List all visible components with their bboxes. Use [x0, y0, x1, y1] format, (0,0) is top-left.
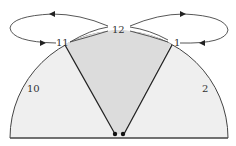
clock-loop-diagram: 12 11 1 10 2 — [0, 0, 236, 146]
right-loop-arrow-top — [180, 11, 186, 17]
label-1: 1 — [174, 37, 180, 48]
label-2: 2 — [202, 83, 208, 94]
label-11: 11 — [56, 37, 69, 48]
left-loop-arrow-bottom — [40, 40, 46, 46]
bottom-dot-right — [121, 132, 125, 136]
left-loop-arrow-top — [49, 11, 55, 17]
label-12: 12 — [112, 24, 125, 35]
bottom-dot-left — [113, 132, 117, 136]
label-10: 10 — [27, 83, 40, 94]
right-loop-arrow-bottom — [199, 40, 205, 46]
